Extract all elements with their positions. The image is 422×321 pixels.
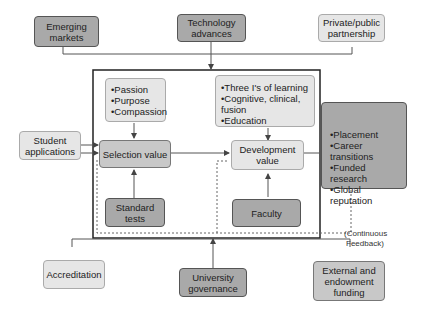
box-label-line: funding	[322, 287, 375, 298]
box-label-line: Emerging	[46, 21, 87, 32]
accreditation-box: Accreditation	[43, 260, 105, 289]
selection-value-box: Selection value	[99, 140, 171, 168]
external-endowment-funding-box: External andendowmentfunding	[313, 261, 385, 301]
box-label-line: Technology	[187, 17, 235, 28]
bullet-item: Cognitive, clinical, fusion	[221, 93, 309, 115]
emerging-markets-box: Emergingmarkets	[34, 16, 99, 47]
student-applications-box: Studentapplications	[19, 131, 81, 160]
faculty-box: Faculty	[232, 199, 301, 227]
bullet-item: Career transitions	[330, 140, 400, 162]
box-label: Accreditation	[47, 269, 102, 280]
box-label-line: Private/public	[323, 17, 380, 28]
box-label-line: applications	[25, 146, 75, 157]
bullet-item: Compassion	[111, 106, 160, 117]
box-label-line: tests	[116, 213, 155, 224]
private-public-partnership-box: Private/publicpartnership	[318, 14, 385, 42]
bullet-item: Passion	[111, 84, 160, 95]
bullet-item: Education	[221, 115, 309, 126]
box-label-line: University	[188, 272, 238, 283]
box-label: Selection value	[103, 149, 167, 160]
note-line: (Continuous	[344, 229, 387, 239]
box-label-line: governance	[188, 283, 238, 294]
box-label-line: Development	[240, 144, 296, 155]
selection-attributes-box: Passion Purpose Compassion	[105, 78, 166, 122]
bullet-item: Funded research	[330, 162, 400, 184]
box-label-line: External and	[322, 265, 375, 276]
bullet-item: Three I's of learning	[221, 82, 309, 93]
standard-tests-box: Standardtests	[105, 198, 165, 227]
box-label: Faculty	[251, 208, 282, 219]
development-value-box: Developmentvalue	[231, 140, 304, 170]
box-label-line: partnership	[323, 28, 380, 39]
bullet-item: Placement	[330, 129, 400, 140]
box-label-line: Student	[25, 135, 75, 146]
note-line: Feedback)	[344, 239, 387, 249]
outcomes-box: Placement Career transitions Funded rese…	[321, 102, 407, 189]
development-attributes-box: Three I's of learning Cognitive, clinica…	[215, 75, 315, 127]
box-label-line: Standard	[116, 202, 155, 213]
technology-advances-box: Technologyadvances	[177, 14, 246, 42]
university-governance-box: Universitygovernance	[179, 268, 247, 297]
box-label-line: endowment	[322, 276, 375, 287]
bullet-item: Global reputation	[330, 184, 400, 206]
box-label-line: advances	[187, 28, 235, 39]
box-label-line: markets	[46, 32, 87, 43]
box-label-line: value	[240, 155, 296, 166]
continuous-feedback-label: (Continuous Feedback)	[344, 229, 387, 249]
bullet-item: Purpose	[111, 95, 160, 106]
